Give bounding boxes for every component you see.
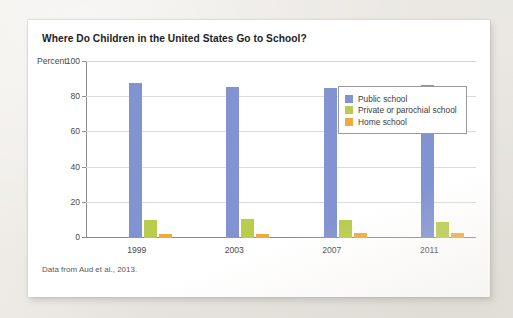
legend-swatch-icon — [345, 118, 353, 126]
bar-private-2003 — [241, 219, 254, 238]
chart-legend: Public schoolPrivate or parochial school… — [338, 86, 467, 134]
y-axis-title: Percent — [37, 56, 67, 66]
x-tick-label-2007: 2007 — [281, 245, 379, 255]
bar-home-2003 — [256, 234, 269, 238]
y-tick-label-0: 0 — [75, 232, 80, 242]
bar-home-2011 — [451, 233, 464, 238]
bar-private-2007 — [339, 220, 352, 238]
legend-label: Private or parochial school — [358, 105, 457, 115]
y-tick-label-100: 100 — [66, 56, 80, 66]
chart-container: Percent 020406080100 1999200320072011 Pu… — [28, 20, 490, 297]
bar-group-2003: 2003 — [184, 62, 282, 238]
figure-card: Where Do Children in the United States G… — [28, 20, 490, 297]
legend-swatch-icon — [345, 95, 353, 103]
x-tick-label-1999: 1999 — [86, 245, 184, 255]
x-tick-label-2003: 2003 — [184, 245, 282, 255]
bar-private-1999 — [144, 220, 157, 238]
legend-label: Public school — [358, 94, 407, 104]
legend-item: Home school — [345, 117, 457, 127]
y-tick-label-20: 20 — [70, 197, 80, 207]
bar-private-2011 — [436, 222, 449, 238]
bar-home-2007 — [354, 233, 367, 238]
bar-home-1999 — [159, 234, 172, 238]
x-tick-label-2011: 2011 — [379, 245, 477, 255]
y-tick-label-80: 80 — [70, 91, 80, 101]
y-tick-label-60: 60 — [70, 126, 80, 136]
legend-label: Home school — [358, 117, 407, 127]
legend-item: Public school — [345, 94, 457, 104]
legend-item: Private or parochial school — [345, 105, 457, 115]
legend-swatch-icon — [345, 106, 353, 114]
bar-public-1999 — [129, 83, 142, 238]
bar-public-2003 — [226, 87, 239, 238]
y-tick-label-40: 40 — [70, 162, 80, 172]
source-note: Data from Aud et al., 2013. — [42, 265, 137, 274]
bar-public-2007 — [324, 88, 337, 238]
bar-group-1999: 1999 — [86, 62, 184, 238]
